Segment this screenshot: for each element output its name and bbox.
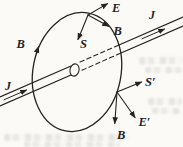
E-field-vector <box>88 4 108 15</box>
label-B-left: B <box>16 37 25 51</box>
label-S-prime: S′ <box>145 75 155 89</box>
label-E: E <box>111 1 120 15</box>
wire-loop-field-diagram: E B S J B J S′ E′ B <box>0 0 183 147</box>
label-B-bottom: B <box>116 128 125 142</box>
label-J-left: J <box>4 79 12 93</box>
figure-canvas: E B S J B J S′ E′ B <box>0 0 183 147</box>
poynting-vector-S-prime <box>117 82 142 92</box>
label-E-prime: E′ <box>138 115 151 129</box>
E-prime-field-vector <box>117 92 135 118</box>
wire-edge-lower-hidden <box>82 53 121 70</box>
label-B-top: B <box>113 24 122 38</box>
label-J-right: J <box>148 8 156 22</box>
label-S: S <box>80 37 87 51</box>
wire-edge-lower-front <box>0 72 79 106</box>
